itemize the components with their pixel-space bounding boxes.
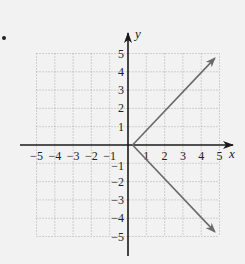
x-axis-label: x	[228, 146, 235, 161]
x-tick-label: 2	[162, 149, 168, 163]
y-tick-label: 2	[118, 101, 124, 115]
y-tick-label: −3	[111, 193, 124, 207]
y-axis-label: y	[133, 26, 141, 41]
chart: xy−5−4−3−2−11234554321−1−2−3−4−5	[0, 0, 245, 264]
x-tick-label: 5	[217, 149, 223, 163]
y-tick-label: 5	[118, 47, 124, 61]
x-tick-label: −4	[48, 149, 61, 163]
x-tick-label: −5	[30, 149, 43, 163]
x-tick-label: 3	[180, 149, 186, 163]
y-tick-label: 1	[118, 120, 124, 134]
y-tick-label: 3	[118, 83, 124, 97]
x-tick-label: −3	[67, 149, 80, 163]
y-tick-label: −2	[111, 175, 124, 189]
y-tick-label: −1	[111, 159, 124, 173]
upper-ray	[133, 58, 215, 145]
y-tick-label: −5	[111, 230, 124, 244]
x-tick-label: 4	[198, 149, 204, 163]
y-tick-label: −4	[111, 211, 124, 225]
x-tick-label: −2	[85, 149, 98, 163]
y-tick-label: 4	[118, 65, 124, 79]
